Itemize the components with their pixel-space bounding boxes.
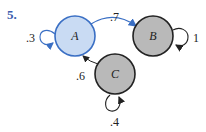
edge-c-to-a-arrow xyxy=(83,56,98,64)
markov-chain-diagram: 5. .7 .6 .3 1 .4 A B C xyxy=(0,0,206,132)
self-loop-b-label: 1 xyxy=(193,31,199,45)
self-loop-a-label: .3 xyxy=(26,31,35,45)
node-c-label: C xyxy=(111,67,120,81)
self-loop-c-arrow xyxy=(106,95,120,111)
self-loop-b-arrow xyxy=(173,28,188,46)
self-loop-b: 1 xyxy=(173,28,199,46)
node-a: A xyxy=(55,16,95,56)
edge-c-to-a-label: .6 xyxy=(76,69,85,83)
node-b: B xyxy=(133,16,173,56)
node-c: C xyxy=(95,54,135,94)
self-loop-a: .3 xyxy=(26,30,55,45)
node-b-label: B xyxy=(149,29,157,43)
self-loop-c-label: .4 xyxy=(110,115,119,129)
self-loop-c: .4 xyxy=(106,95,120,129)
problem-number: 5. xyxy=(7,7,17,22)
edge-a-to-b-label: .7 xyxy=(110,10,119,24)
edge-a-to-b: .7 xyxy=(91,10,136,26)
node-a-label: A xyxy=(70,29,79,43)
self-loop-a-arrow xyxy=(40,30,55,44)
